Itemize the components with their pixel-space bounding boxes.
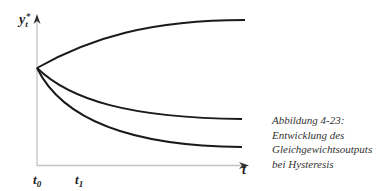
tick-t1: t1 bbox=[75, 172, 83, 189]
caption-line-1: Abbildung 4-23: bbox=[272, 113, 391, 128]
curve-lower bbox=[37, 68, 242, 147]
tick-t1-sub: 1 bbox=[79, 179, 84, 189]
caption-line-2: Entwicklung des bbox=[272, 128, 391, 143]
curve-upper bbox=[37, 20, 245, 68]
tick-t0-sub: 0 bbox=[37, 179, 42, 189]
x-label-text: t bbox=[242, 162, 246, 177]
caption-line-4: bei Hysteresis bbox=[272, 157, 391, 172]
curve-middle bbox=[37, 68, 242, 119]
x-axis-label: t bbox=[242, 162, 246, 178]
caption-line-3: Gleichgewichtsoutputs bbox=[272, 142, 391, 157]
tick-t0: t0 bbox=[33, 172, 41, 189]
y-axis-label: yt* bbox=[19, 11, 30, 29]
y-label-sup: * bbox=[26, 11, 31, 21]
figure-caption: Abbildung 4-23: Entwicklung des Gleichge… bbox=[272, 113, 391, 171]
